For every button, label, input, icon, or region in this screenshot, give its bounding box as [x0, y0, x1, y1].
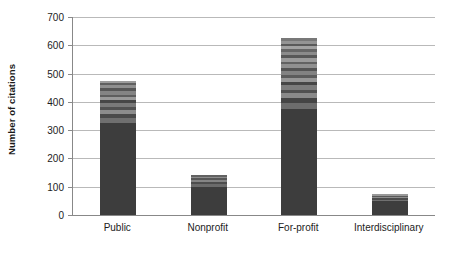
y-tick-label: 700 [47, 12, 64, 23]
gridline [73, 74, 435, 75]
x-axis-tick-labels: PublicNonprofitFor-profitInterdisciplina… [72, 222, 434, 242]
bar-public[interactable] [100, 81, 136, 215]
y-tick-label: 600 [47, 40, 64, 51]
bar-segment [191, 187, 227, 215]
bar-interdisciplinary[interactable] [372, 194, 408, 215]
y-tick-label: 200 [47, 153, 64, 164]
citations-stacked-bar-chart: Number of citations 01002003004005006007… [0, 0, 453, 258]
y-axis-title: Number of citations [0, 0, 24, 218]
gridline [73, 17, 435, 18]
bar-segment [100, 123, 136, 215]
x-tick-label-for-profit: For-profit [278, 222, 319, 233]
plot-area [72, 17, 435, 216]
bar-for-profit[interactable] [281, 38, 317, 215]
y-axis-title-text: Number of citations [7, 63, 18, 154]
y-tick-label: 500 [47, 68, 64, 79]
bar-nonprofit[interactable] [191, 175, 227, 215]
y-axis-tick-labels: 0100200300400500600700 [26, 0, 68, 230]
x-tick-label-interdisciplinary: Interdisciplinary [354, 222, 423, 233]
x-tick-label-public: Public [104, 222, 131, 233]
bar-segment [281, 109, 317, 215]
x-tick-label-nonprofit: Nonprofit [187, 222, 228, 233]
bar-segment [372, 201, 408, 215]
y-tick-label: 0 [58, 210, 64, 221]
gridline [73, 45, 435, 46]
y-tick-label: 400 [47, 96, 64, 107]
y-tick-label: 300 [47, 125, 64, 136]
y-tick-label: 100 [47, 181, 64, 192]
